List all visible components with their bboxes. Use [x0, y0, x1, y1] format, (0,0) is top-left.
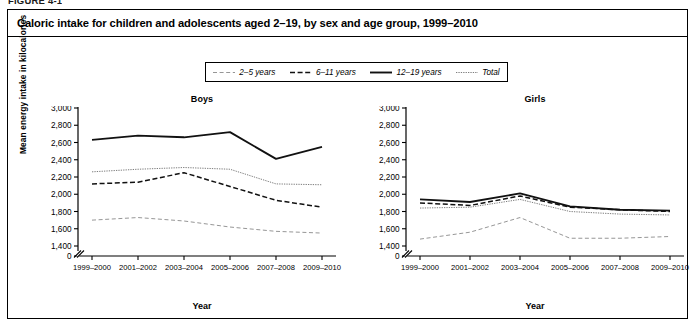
axes-boys: [78, 107, 336, 256]
y-tick-label: 2,800: [51, 121, 72, 130]
x-axis-ticks-boys: 1999–20002001–20022003–20042005–20062007…: [73, 256, 341, 272]
panel-title-boys: Boys: [22, 94, 342, 104]
x-tick-label: 2003–2004: [501, 263, 539, 272]
y-axis-ticks-girls: 3,0002,8002,6002,4002,2002,0001,8001,600…: [379, 106, 406, 261]
x-axis-title-girls: Year: [360, 301, 680, 311]
panel-title-girls: Girls: [360, 94, 680, 104]
x-tick-label: 1999–2000: [401, 263, 439, 272]
y-tick-label: 1,800: [51, 208, 72, 217]
y-tick-label: 2,600: [379, 139, 400, 148]
plot-area-girls: 3,0002,8002,6002,4002,2002,0001,8001,600…: [360, 106, 690, 296]
figure-root: FIGURE 4-1 Caloric intake for children a…: [0, 0, 695, 329]
y-tick-label: 1,800: [379, 208, 400, 217]
chart-panel-girls: Girls Year 3,0002,8002,6002,4002,2002,00…: [360, 94, 680, 312]
y-tick-label: 0: [395, 252, 400, 261]
x-axis-title-boys: Year: [22, 301, 342, 311]
x-tick-label: 2001–2002: [451, 263, 489, 272]
figure-panel-box: Caloric intake for children and adolesce…: [7, 9, 688, 319]
y-tick-label: 1,400: [51, 242, 72, 251]
y-tick-label: 1,400: [379, 242, 400, 251]
x-tick-label: 2005–2006: [211, 263, 249, 272]
y-tick-label: 3,000: [51, 106, 72, 113]
y-tick-label: 1,600: [51, 225, 72, 234]
legend-item-label: 12–19 years: [396, 68, 441, 77]
legend-item[interactable]: 2–5 years: [212, 68, 276, 77]
y-tick-label: 2,800: [379, 121, 400, 130]
legend-item[interactable]: 6–11 years: [289, 68, 357, 77]
legend-line-fine-dashed-icon: [213, 69, 235, 76]
figure-title-bar: Caloric intake for children and adolesce…: [8, 10, 687, 37]
legend-line-dashed-icon: [290, 69, 312, 76]
y-tick-label: 2,000: [51, 190, 72, 199]
y-tick-label: 2,600: [51, 139, 72, 148]
y-tick-label: 3,000: [379, 106, 400, 113]
legend-item[interactable]: 12–19 years: [369, 68, 442, 77]
x-tick-label: 2005–2006: [551, 263, 589, 272]
legend-line-solid-icon: [370, 69, 392, 76]
x-axis-ticks-girls: 1999–20002001–20022003–20042005–20062007…: [401, 256, 689, 272]
y-tick-label: 2,200: [379, 173, 400, 182]
legend-item[interactable]: Total: [455, 68, 500, 77]
axes-girls: [406, 107, 684, 256]
series-line: [92, 173, 322, 208]
x-tick-label: 2009–2010: [303, 263, 341, 272]
x-tick-label: 2007–2008: [257, 263, 295, 272]
series-line: [420, 193, 670, 210]
plot-area-boys: 3,0002,8002,6002,4002,2002,0001,8001,600…: [22, 106, 342, 296]
y-tick-label: 2,200: [51, 173, 72, 182]
chart-legend: 2–5 years6–11 years12–19 yearsTotal: [205, 62, 508, 82]
series-line: [92, 218, 322, 234]
legend-line-dotted-icon: [456, 69, 478, 76]
y-tick-label: 2,000: [379, 190, 400, 199]
chart-panel-boys: Boys Mean energy intake in kilocalories …: [22, 94, 342, 312]
legend-item-label: 2–5 years: [239, 68, 275, 77]
series-line: [420, 218, 670, 240]
y-axis-ticks-boys: 3,0002,8002,6002,4002,2002,0001,8001,600…: [51, 106, 78, 261]
y-tick-label: 2,400: [51, 156, 72, 165]
y-tick-label: 0: [67, 252, 72, 261]
legend-item-label: 6–11 years: [316, 68, 356, 77]
series-line: [92, 132, 322, 159]
x-tick-label: 1999–2000: [73, 263, 111, 272]
figure-title: Caloric intake for children and adolesce…: [17, 17, 478, 29]
legend-item-label: Total: [482, 68, 499, 77]
x-tick-label: 2001–2002: [119, 263, 157, 272]
figure-number-caption: FIGURE 4-1: [8, 0, 62, 6]
y-tick-label: 1,600: [379, 225, 400, 234]
x-tick-label: 2007–2008: [601, 263, 639, 272]
x-tick-label: 2009–2010: [651, 263, 689, 272]
y-tick-label: 2,400: [379, 156, 400, 165]
x-tick-label: 2003–2004: [165, 263, 203, 272]
